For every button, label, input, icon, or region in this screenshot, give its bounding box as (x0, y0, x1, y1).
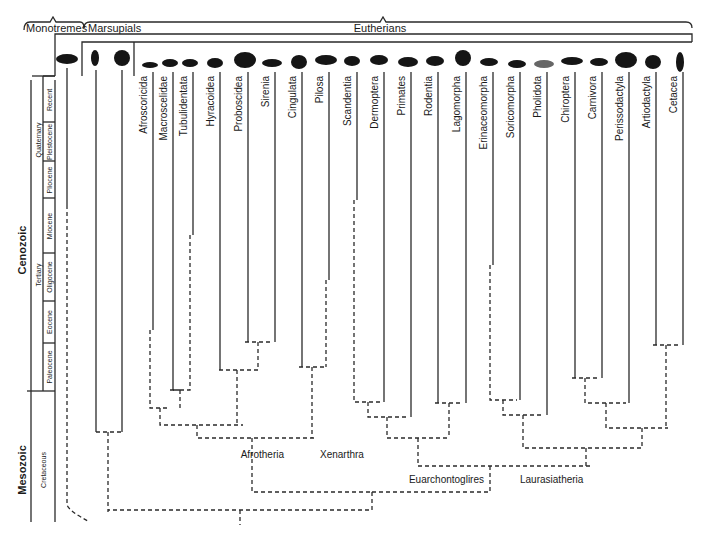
monkey-icon (398, 57, 418, 67)
rabbit-icon (455, 50, 471, 66)
clade-laurasiatheria: Laurasiatheria (520, 474, 584, 485)
epoch-miocene: Miocene (46, 213, 53, 240)
order-label-artiodactyla: Artiodactyla (641, 76, 652, 129)
order-label-perissodactyla: Perissodactyla (614, 76, 625, 141)
treeshrew-icon (344, 56, 360, 66)
order-label-proboscidea: Proboscidea (233, 76, 244, 132)
order-label-cetacea: Cetacea (668, 76, 679, 114)
phylogeny-diagram: Monotremes Marsupials Eutherians Cenozoi… (0, 0, 706, 543)
mammals-frame (55, 34, 692, 76)
era-mesozoic: Mesozoic (16, 445, 28, 495)
time-scale: Cenozoic Mesozoic Quaternary Tertiary Cr… (16, 76, 55, 522)
order-label-sirenia: Sirenia (260, 76, 271, 108)
order-label-afroscoricida: Afroscoricida (138, 76, 149, 134)
period-cretaceous: Cretaceous (40, 452, 47, 488)
monotremes-label: Monotremes (26, 22, 88, 34)
order-label-carnivora: Carnivora (587, 76, 598, 120)
order-label-rodentia: Rodentia (423, 76, 434, 116)
manatee-icon (262, 59, 282, 67)
rhino-icon (615, 52, 637, 68)
order-label-chiroptera: Chiroptera (560, 76, 571, 123)
order-label-soricomorpha: Soricomorpha (505, 76, 516, 139)
order-label-pilosa: Pilosa (314, 76, 325, 104)
bat-icon (561, 57, 583, 65)
koala-icon (114, 50, 130, 66)
order-label-scandentia: Scandentia (342, 76, 353, 126)
clade-labels: Afrotheria Xenarthra Euarchontoglires La… (241, 449, 584, 485)
order-label-tubulidentata: Tubulidentata (178, 76, 189, 137)
epoch-pliocene: Pliocene (46, 166, 53, 193)
elephant-shrew-icon (162, 59, 178, 67)
dolphin-icon (676, 52, 684, 72)
epoch-paleocene: Paleocene (46, 350, 53, 383)
epoch-oligocene: Oligocene (46, 261, 54, 293)
anteater-icon (315, 55, 337, 65)
marsupials-label: Marsupials (88, 22, 142, 34)
order-label-lagomorpha: Lagomorpha (451, 76, 462, 133)
tenrec-icon (142, 62, 158, 68)
colugo-icon (370, 55, 388, 65)
aardvark-icon (182, 59, 198, 67)
squirrel-icon (426, 56, 444, 66)
shrew-icon (508, 60, 526, 68)
opossum-icon (91, 50, 99, 66)
order-label-macroscelidae: Macroscelidae (158, 76, 169, 141)
period-quaternary: Quaternary (35, 122, 43, 158)
era-cenozoic: Cenozoic (16, 226, 28, 275)
hyrax-icon (207, 58, 223, 68)
clade-afrotheria: Afrotheria (241, 449, 285, 460)
order-label-erinaceomorpha: Erinaceomorpha (478, 76, 489, 150)
deer-icon (645, 55, 661, 69)
fox-icon (590, 58, 608, 66)
order-labels: AfroscoricidaMacroscelidaeTubulidentataH… (138, 72, 683, 417)
armadillo-icon (291, 55, 307, 69)
group-braces: Monotremes Marsupials Eutherians (24, 17, 692, 76)
clade-xenarthra: Xenarthra (320, 449, 364, 460)
order-label-dermoptera: Dermoptera (369, 76, 380, 129)
period-tertiary: Tertiary (35, 263, 43, 286)
order-label-cingulata: Cingulata (287, 76, 298, 119)
elephant-icon (234, 52, 256, 68)
hedgehog-icon (480, 58, 498, 66)
animal-silhouettes (56, 50, 684, 72)
epoch-eocene: Eocene (46, 310, 53, 334)
tree-connectors (108, 200, 680, 525)
order-label-hyracoidea: Hyracoidea (205, 76, 216, 127)
platypus-icon (56, 54, 78, 64)
eutherians-label: Eutherians (354, 22, 407, 34)
basal-lineages (67, 68, 122, 522)
epoch-recent: Recent (46, 89, 53, 111)
epoch-pleistocene: Pleistocene (46, 124, 53, 160)
clade-euarchontoglires: Euarchontoglires (409, 474, 484, 485)
pangolin-icon (534, 60, 554, 68)
order-label-primates: Primates (396, 76, 407, 115)
order-label-pholidota: Pholidota (532, 76, 543, 118)
